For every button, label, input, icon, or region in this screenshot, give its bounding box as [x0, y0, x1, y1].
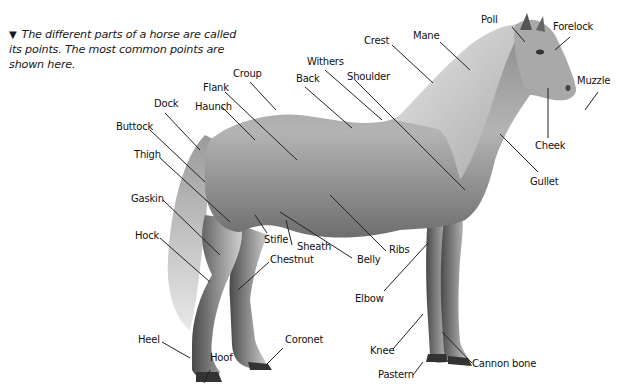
triangle-marker-icon: ▼ — [9, 29, 17, 40]
hoof-front-near — [448, 356, 472, 366]
label-shoulder: Shoulder — [347, 71, 390, 82]
label-dock: Dock — [154, 98, 178, 109]
label-gullet: Gullet — [530, 176, 559, 187]
label-hoof: Hoof — [210, 352, 232, 363]
label-cheek: Cheek — [535, 140, 565, 151]
caption-text: The different parts of a horse are calle… — [9, 28, 236, 71]
label-forelock: Forelock — [553, 21, 593, 32]
label-buttock: Buttock — [116, 121, 153, 132]
label-cannon-bone: Cannon bone — [472, 358, 536, 369]
label-ribs: Ribs — [389, 244, 409, 255]
eye — [536, 50, 544, 55]
label-mane: Mane — [413, 30, 439, 41]
label-chestnut: Chestnut — [270, 254, 314, 265]
label-crest: Crest — [364, 35, 389, 46]
label-stifle: Stifle — [264, 234, 288, 245]
label-belly: Belly — [357, 254, 381, 265]
front-leg-near — [441, 210, 470, 364]
label-knee: Knee — [370, 345, 394, 356]
label-sheath: Sheath — [297, 241, 331, 252]
label-elbow: Elbow — [355, 293, 384, 304]
label-gaskin: Gaskin — [131, 193, 164, 204]
horse-points-diagram: ▼The different parts of a horse are call… — [0, 0, 627, 389]
label-pastern: Pastern — [378, 369, 414, 380]
label-poll: Poll — [481, 14, 498, 25]
label-withers: Withers — [307, 56, 344, 67]
label-flank: Flank — [203, 82, 229, 93]
label-muzzle: Muzzle — [577, 75, 610, 86]
label-thigh: Thigh — [134, 149, 161, 160]
hoof-front-far — [426, 354, 448, 362]
nostril — [566, 85, 571, 91]
diagram-caption: ▼The different parts of a horse are call… — [9, 27, 249, 72]
label-heel: Heel — [138, 334, 160, 345]
label-back: Back — [296, 73, 319, 84]
label-coronet: Coronet — [285, 334, 323, 345]
hoof-hind-near — [196, 372, 222, 382]
label-hock: Hock — [135, 230, 159, 241]
label-croup: Croup — [233, 68, 262, 79]
label-haunch: Haunch — [195, 101, 232, 112]
